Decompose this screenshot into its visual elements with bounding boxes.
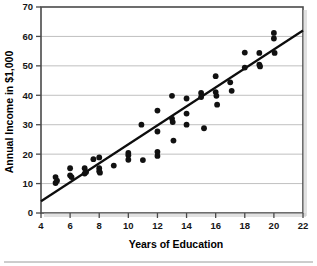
data-point: [155, 153, 161, 159]
ytick-label-20: 20: [22, 149, 33, 160]
data-point: [96, 154, 102, 160]
data-point: [140, 157, 146, 163]
data-point: [111, 163, 117, 169]
xtick-label-22: 22: [298, 220, 309, 231]
y-axis-title: Annual Income in $1,000: [3, 51, 15, 174]
plot-border: [41, 7, 303, 213]
ytick-label-10: 10: [22, 178, 33, 189]
ytick-label-70: 70: [22, 1, 33, 12]
data-point: [54, 178, 60, 184]
data-point: [198, 94, 204, 100]
gridlines-group: [41, 36, 303, 183]
chart-figure: 010203040506070 46810121416182022 Years …: [0, 0, 317, 266]
xtick-label-4: 4: [38, 220, 44, 231]
data-point: [69, 174, 75, 180]
ytick-label-0: 0: [28, 207, 33, 218]
y-axis-ticks: 010203040506070: [22, 1, 41, 218]
data-point: [271, 36, 277, 42]
data-point: [214, 102, 220, 108]
data-point: [242, 50, 248, 56]
x-axis-title: Years of Education: [129, 238, 224, 250]
data-point: [184, 96, 190, 102]
data-point: [256, 50, 262, 56]
data-point: [155, 129, 161, 135]
data-point: [271, 30, 277, 36]
xtick-label-20: 20: [269, 220, 280, 231]
data-point: [227, 79, 233, 85]
data-point: [242, 65, 248, 71]
data-point: [184, 122, 190, 128]
data-point: [201, 125, 207, 131]
ytick-label-60: 60: [22, 31, 33, 42]
xtick-label-10: 10: [123, 220, 134, 231]
datapoints-group: [53, 30, 278, 186]
data-point: [155, 108, 161, 114]
xtick-label-12: 12: [152, 220, 163, 231]
data-point: [171, 138, 177, 144]
data-point: [139, 122, 145, 128]
frame-shadow-bottom: [44, 213, 306, 217]
xtick-label-14: 14: [181, 220, 192, 231]
xtick-label-16: 16: [210, 220, 221, 231]
data-point: [184, 111, 190, 117]
plot-frame: [41, 7, 307, 217]
data-point: [170, 119, 176, 125]
data-point: [67, 165, 73, 171]
xtick-label-6: 6: [67, 220, 72, 231]
data-point: [257, 64, 263, 70]
data-point: [213, 93, 219, 99]
data-point: [272, 50, 278, 56]
data-point: [125, 157, 131, 163]
data-point: [97, 170, 103, 176]
data-point: [213, 73, 219, 79]
data-point: [229, 88, 235, 94]
scatter-plot-svg: 010203040506070 46810121416182022 Years …: [0, 0, 317, 266]
ytick-label-40: 40: [22, 90, 33, 101]
xtick-label-18: 18: [239, 220, 250, 231]
ytick-label-50: 50: [22, 60, 33, 71]
xtick-label-8: 8: [97, 220, 102, 231]
frame-shadow-right: [303, 10, 307, 216]
ytick-label-30: 30: [22, 119, 33, 130]
data-point: [91, 156, 97, 162]
data-point: [169, 93, 175, 99]
data-point: [83, 169, 89, 175]
